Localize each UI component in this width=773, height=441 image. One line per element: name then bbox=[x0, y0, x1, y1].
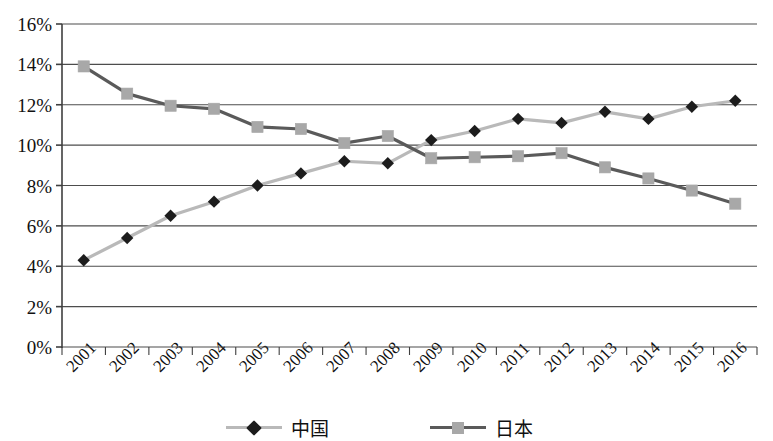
plot-area bbox=[0, 0, 773, 441]
data-point-marker bbox=[599, 162, 610, 173]
data-point-marker bbox=[382, 130, 393, 141]
legend-line-china bbox=[226, 426, 282, 429]
legend-label-japan: 日本 bbox=[495, 414, 533, 441]
data-point-marker bbox=[165, 100, 176, 111]
data-point-marker bbox=[686, 101, 698, 113]
legend-label-china: 中国 bbox=[291, 414, 329, 441]
data-point-marker bbox=[208, 195, 220, 207]
data-point-marker bbox=[730, 198, 741, 209]
series-line bbox=[84, 66, 736, 203]
data-point-marker bbox=[426, 153, 437, 164]
data-point-marker bbox=[295, 123, 306, 134]
diamond-marker-icon bbox=[246, 420, 262, 436]
data-point-marker bbox=[121, 232, 133, 244]
square-marker-icon bbox=[452, 422, 464, 434]
line-chart: 16%14%12%10%8%6%4%2%0% 20012002200320042… bbox=[0, 0, 773, 441]
data-point-marker bbox=[164, 210, 176, 222]
series-line bbox=[84, 101, 736, 260]
data-point-marker bbox=[468, 125, 480, 137]
data-point-marker bbox=[686, 185, 697, 196]
chart-legend: 中国 日本 bbox=[0, 414, 773, 441]
data-point-marker bbox=[469, 152, 480, 163]
data-point-marker bbox=[252, 121, 263, 132]
data-point-marker bbox=[78, 61, 89, 72]
data-point-marker bbox=[512, 151, 523, 162]
data-point-marker bbox=[251, 179, 263, 191]
data-point-marker bbox=[78, 254, 90, 266]
data-point-marker bbox=[512, 113, 524, 125]
data-point-marker bbox=[338, 155, 350, 167]
data-point-marker bbox=[382, 157, 394, 169]
data-point-marker bbox=[643, 173, 654, 184]
data-point-marker bbox=[555, 117, 567, 129]
data-point-marker bbox=[642, 113, 654, 125]
data-point-marker bbox=[599, 106, 611, 118]
data-point-marker bbox=[556, 148, 567, 159]
data-point-marker bbox=[425, 134, 437, 146]
data-point-marker bbox=[339, 138, 350, 149]
data-point-marker bbox=[122, 88, 133, 99]
data-point-marker bbox=[295, 167, 307, 179]
legend-entry-japan[interactable]: 日本 bbox=[430, 414, 533, 441]
legend-line-japan bbox=[430, 426, 486, 429]
data-point-marker bbox=[208, 103, 219, 114]
legend-entry-china[interactable]: 中国 bbox=[226, 414, 329, 441]
